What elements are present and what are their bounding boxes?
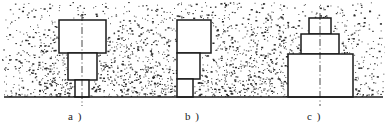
block-b-bottom: [177, 79, 193, 97]
block-b-middle: [177, 53, 200, 79]
block-b-top: [177, 20, 211, 53]
block-a-middle: [68, 53, 97, 80]
technical-figure: a ) b ) c ): [0, 0, 387, 135]
figure-drawing-canvas: [0, 0, 387, 135]
block-c-bottom: [288, 54, 353, 97]
block-a-top: [59, 20, 106, 53]
